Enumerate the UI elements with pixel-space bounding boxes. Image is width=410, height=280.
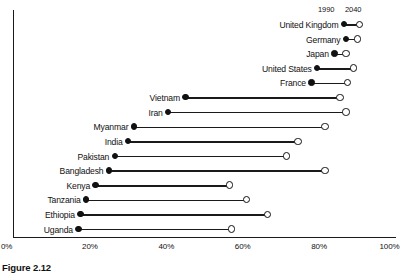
row-label-united-kingdom: United Kingdom: [279, 18, 338, 32]
row-connector-line: [80, 214, 267, 215]
row-label-uganda: Uganda: [44, 223, 73, 237]
row-label-united-states: United States: [262, 62, 312, 76]
x-axis-line: [13, 237, 396, 238]
marker-2040: [354, 35, 361, 42]
chart-row: Japan: [0, 47, 410, 61]
chart-row: Iran: [0, 106, 410, 120]
marker-1990: [314, 65, 320, 71]
marker-2040: [356, 21, 363, 28]
marker-1990: [343, 36, 349, 42]
marker-1990: [83, 196, 89, 202]
row-label-germany: Germany: [306, 33, 340, 47]
marker-2040: [321, 123, 328, 130]
chart-row: Germany: [0, 33, 410, 47]
marker-2040: [264, 211, 271, 218]
row-connector-line: [317, 68, 353, 69]
marker-2040: [350, 64, 357, 71]
row-label-pakistan: Pakistan: [77, 150, 109, 164]
row-label-iran: Iran: [149, 106, 163, 120]
x-tick-label: 100%: [379, 241, 399, 252]
row-connector-line: [134, 127, 325, 128]
plot-area: 0%20%40%60%80%100% United KingdomGermany…: [0, 0, 410, 250]
row-label-tanzania: Tanzania: [47, 193, 80, 207]
row-label-france: France: [280, 76, 306, 90]
chart-row: United States: [0, 62, 410, 76]
x-tick-label: 20%: [82, 241, 98, 252]
chart-row: Ethiopia: [0, 208, 410, 222]
row-label-ethiopia: Ethiopia: [45, 208, 75, 222]
row-label-bangladesh: Bangladesh: [60, 164, 104, 178]
row-label-india: India: [105, 135, 123, 149]
marker-2040: [294, 138, 301, 145]
marker-1990: [165, 109, 171, 115]
row-connector-line: [128, 141, 298, 142]
marker-2040: [228, 225, 235, 232]
chart-row: India: [0, 135, 410, 149]
marker-1990: [331, 50, 337, 56]
row-connector-line: [115, 156, 287, 157]
marker-2040: [226, 181, 233, 188]
x-tick-label: 0%: [1, 241, 12, 252]
chart-row: Vietnam: [0, 91, 410, 105]
x-tick-label: 60%: [235, 241, 251, 252]
marker-1990: [125, 138, 131, 144]
marker-2040: [344, 79, 351, 86]
figure-container: 1990 2040 0%20%40%60%80%100% United King…: [0, 0, 410, 280]
marker-1990: [182, 94, 188, 100]
row-connector-line: [168, 112, 346, 113]
marker-2040: [321, 167, 328, 174]
chart-row: Myanmar: [0, 120, 410, 134]
marker-1990: [75, 226, 81, 232]
marker-2040: [243, 196, 250, 203]
chart-row: Uganda: [0, 223, 410, 237]
chart-row: Tanzania: [0, 193, 410, 207]
chart-row: United Kingdom: [0, 18, 410, 32]
marker-1990: [341, 21, 347, 27]
row-connector-line: [109, 170, 325, 171]
marker-2040: [283, 152, 290, 159]
row-label-kenya: Kenya: [67, 179, 91, 193]
chart-row: Pakistan: [0, 150, 410, 164]
marker-1990: [106, 167, 112, 173]
row-connector-line: [311, 83, 347, 84]
marker-2040: [336, 94, 343, 101]
marker-1990: [77, 211, 83, 217]
x-tick-label: 80%: [311, 241, 327, 252]
figure-caption: Figure 2.12: [2, 262, 51, 273]
chart-row: Bangladesh: [0, 164, 410, 178]
marker-1990: [112, 153, 118, 159]
chart-row: Kenya: [0, 179, 410, 193]
marker-2040: [342, 50, 349, 57]
row-connector-line: [78, 229, 231, 230]
row-label-vietnam: Vietnam: [150, 91, 180, 105]
marker-1990: [308, 79, 314, 85]
row-label-japan: Japan: [306, 47, 329, 61]
row-connector-line: [86, 200, 246, 201]
marker-1990: [131, 123, 137, 129]
marker-1990: [92, 182, 98, 188]
marker-2040: [342, 108, 349, 115]
row-connector-line: [185, 97, 340, 98]
x-tick-label: 40%: [158, 241, 174, 252]
row-label-myanmar: Myanmar: [94, 120, 129, 134]
chart-row: France: [0, 76, 410, 90]
row-connector-line: [96, 185, 230, 186]
